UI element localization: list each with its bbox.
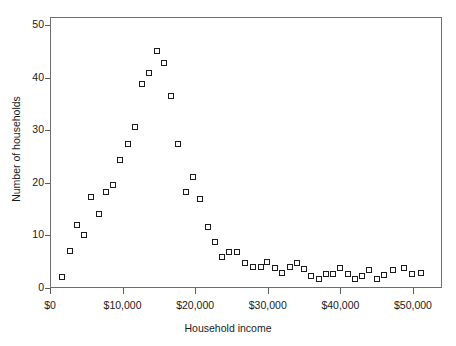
x-axis-tick-label: $30,000: [249, 299, 287, 312]
data-point-marker: [345, 271, 351, 277]
data-point-marker: [401, 265, 407, 271]
data-point-marker: [301, 266, 307, 272]
y-axis-tick-mark: [45, 130, 50, 131]
data-point-marker: [272, 265, 278, 271]
data-point-marker: [117, 157, 123, 163]
x-axis-tick-label: $0: [44, 299, 56, 312]
data-point-marker: [74, 222, 80, 228]
x-axis-tick-label: $10,000: [104, 299, 142, 312]
data-point-marker: [390, 267, 396, 273]
data-point-marker: [279, 270, 285, 276]
y-axis-tick-label: 40: [32, 72, 44, 83]
data-point-marker: [381, 272, 387, 278]
x-axis-tick-label: $40,000: [321, 299, 359, 312]
data-point-marker: [330, 271, 336, 277]
data-point-marker: [242, 260, 248, 266]
data-point-marker: [132, 124, 138, 130]
x-axis-tick-label: $50,000: [394, 299, 432, 312]
x-axis-tick-marks: [0, 288, 456, 296]
data-point-marker: [250, 264, 256, 270]
y-axis-tick-mark: [45, 235, 50, 236]
data-point-marker: [287, 264, 293, 270]
scatter-plot-figure: 01020304050 $0$10,000$20,000$30,000$40,0…: [0, 0, 456, 346]
data-point-marker: [359, 273, 365, 279]
data-point-marker: [352, 276, 358, 282]
data-point-marker: [264, 259, 270, 265]
data-point-marker: [323, 271, 329, 277]
data-point-marker: [316, 276, 322, 282]
x-axis-tick-mark: [123, 288, 124, 294]
data-point-marker: [409, 271, 415, 277]
data-point-marker: [366, 267, 372, 273]
data-point-marker: [139, 81, 145, 87]
x-axis-title: Household income: [0, 322, 456, 334]
y-axis-tick-label: 10: [32, 229, 44, 240]
data-point-marker: [110, 182, 116, 188]
data-point-marker: [337, 265, 343, 271]
data-point-marker: [67, 248, 73, 254]
x-axis-tick-label: $20,000: [176, 299, 214, 312]
data-point-marker: [374, 276, 380, 282]
data-point-marker: [59, 274, 65, 280]
y-axis-tick-label: 20: [32, 177, 44, 188]
x-axis-tick-mark: [50, 288, 51, 294]
x-axis-tick-mark: [340, 288, 341, 294]
data-point-marker: [175, 141, 181, 147]
y-axis-title-wrapper: Number of households: [10, 49, 24, 249]
data-point-marker: [258, 264, 264, 270]
data-point-marker: [125, 141, 131, 147]
x-axis-tick-mark: [413, 288, 414, 294]
x-axis-tick-mark: [268, 288, 269, 294]
data-point-marker: [308, 273, 314, 279]
data-point-marker: [168, 93, 174, 99]
y-axis-tick-label: 50: [32, 19, 44, 30]
data-point-marker: [103, 189, 109, 195]
data-point-marker: [161, 60, 167, 66]
data-point-marker: [212, 239, 218, 245]
plot-data-area: [50, 17, 442, 288]
data-point-marker: [88, 194, 94, 200]
y-axis-tick-label: 30: [32, 124, 44, 135]
data-point-marker: [234, 249, 240, 255]
data-point-marker: [81, 232, 87, 238]
y-axis-title: Number of households: [10, 49, 22, 249]
y-axis-tick-mark: [45, 78, 50, 79]
data-point-marker: [418, 270, 424, 276]
data-point-marker: [294, 260, 300, 266]
y-axis-tick-mark: [45, 25, 50, 26]
data-point-marker: [190, 174, 196, 180]
y-axis-tick-mark: [45, 183, 50, 184]
x-axis-tick-mark: [195, 288, 196, 294]
data-point-marker: [154, 48, 160, 54]
data-point-marker: [197, 196, 203, 202]
data-point-marker: [219, 254, 225, 260]
data-point-marker: [226, 249, 232, 255]
data-point-marker: [96, 211, 102, 217]
x-axis-tick-labels: $0$10,000$20,000$30,000$40,000$50,000: [0, 299, 456, 315]
data-point-marker: [146, 70, 152, 76]
data-point-marker: [183, 189, 189, 195]
data-point-marker: [205, 224, 211, 230]
